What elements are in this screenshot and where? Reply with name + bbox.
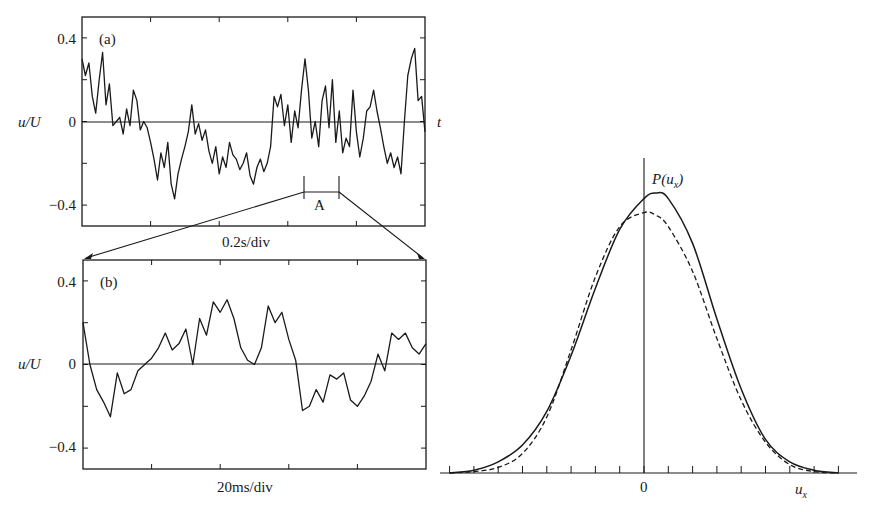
panel-b-ytick-neg0.4: −0.4 — [26, 440, 76, 455]
arrowhead-left-icon — [84, 253, 93, 259]
pdf-xtick-0: 0 — [640, 480, 648, 495]
pdf-xlabel-subscript: x — [803, 489, 807, 500]
panel-b-label: (b) — [100, 275, 118, 290]
panel-a-ylabel: u/U — [18, 115, 41, 130]
pdf-ylabel: P(ux) — [652, 172, 683, 190]
pdf-xlabel-main: u — [795, 481, 803, 497]
panel-a — [82, 17, 425, 226]
panel-b-signal-trace — [83, 300, 426, 417]
pdf-xlabel: ux — [795, 482, 807, 500]
pdf-panel — [440, 158, 857, 473]
zoom-region-label: A — [314, 198, 325, 213]
pdf-x-ticks — [450, 466, 839, 473]
connector-left — [86, 192, 304, 258]
pdf-ylabel-close: ) — [678, 171, 683, 187]
panel-b-ylabel: u/U — [18, 357, 41, 372]
panel-a-signal-trace — [82, 48, 425, 198]
panel-b-xlabel: 20ms/div — [217, 480, 273, 495]
panel-a-label: (a) — [99, 32, 116, 47]
panel-a-ytick-neg0.4: −0.4 — [26, 198, 76, 213]
connector-right — [339, 192, 423, 258]
time-axis-label: t — [437, 115, 441, 130]
panel-b-ytick-0.4: 0.4 — [26, 275, 76, 290]
panel-a-ytick-0.4: 0.4 — [26, 32, 76, 47]
figure-canvas — [0, 0, 873, 512]
pdf-ylabel-main: P(u — [652, 171, 674, 187]
panel-b — [83, 260, 426, 469]
panel-a-xlabel: 0.2s/div — [222, 235, 270, 250]
